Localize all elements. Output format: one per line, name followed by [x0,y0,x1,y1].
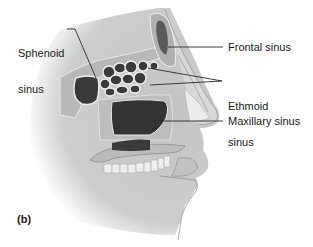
panel-label: (b) [17,213,31,225]
sphenoid-label-line1: Sphenoid [18,47,65,59]
sphenoid-label-line2: sinus [18,83,65,95]
sinus-diagram: Sphenoid sinus Frontal sinus Ethmoid sin… [0,0,313,247]
ethmoid-label-line2: sinus [228,136,268,148]
frontal-sinus-label: Frontal sinus [228,41,291,53]
ethmoid-leader [148,68,222,85]
sphenoid-sinus-label: Sphenoid sinus [18,23,65,119]
sphenoid-leader [67,29,96,78]
ethmoid-label-line1: Ethmoid [228,100,268,112]
maxillary-sinus-label: Maxillary sinus [228,115,300,127]
